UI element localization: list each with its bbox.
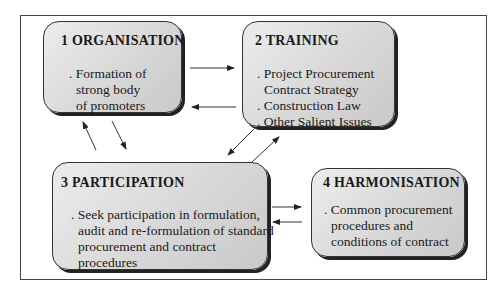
- box-participation-body: . Seek participation in formulation, aud…: [71, 207, 274, 271]
- box-harmonisation-line: conditions of contract: [324, 234, 453, 250]
- box-participation-line: . Seek participation in formulation,: [71, 207, 274, 223]
- box-participation-line: procedures: [71, 255, 274, 271]
- box-organisation-line: strong body: [69, 82, 147, 98]
- box-training-line: . Other Salient Issues: [257, 114, 374, 130]
- box-training-line: . Construction Law: [257, 98, 374, 114]
- box-harmonisation: 4 HARMONISATION . Common procurement pro…: [311, 168, 465, 257]
- box-training-title: 2 TRAINING: [255, 33, 339, 49]
- box-organisation-line: of promoters: [69, 98, 147, 114]
- box-training-line: . Project Procurement: [257, 66, 374, 82]
- box-organisation-title: 1 ORGANISATION: [61, 33, 185, 49]
- box-participation-line: procurement and contract: [71, 239, 274, 255]
- box-organisation-body: . Formation of strong body of promoters: [69, 66, 147, 114]
- box-harmonisation-line: procedures and: [324, 218, 453, 234]
- box-organisation-line: . Formation of: [69, 66, 147, 82]
- box-harmonisation-title: 4 HARMONISATION: [323, 175, 460, 191]
- box-harmonisation-body: . Common procurement procedures and cond…: [324, 202, 453, 250]
- box-training-body: . Project Procurement Contract Strategy …: [257, 66, 374, 130]
- box-training: 2 TRAINING . Project Procurement Contrac…: [242, 21, 395, 127]
- box-participation: 3 PARTICIPATION . Seek participation in …: [52, 162, 268, 270]
- box-harmonisation-line: . Common procurement: [324, 202, 453, 218]
- box-participation-line: audit and re-formulation of standard: [71, 223, 274, 239]
- box-participation-title: 3 PARTICIPATION: [61, 175, 184, 191]
- box-organisation: 1 ORGANISATION . Formation of strong bod…: [43, 21, 182, 113]
- box-training-line: Contract Strategy: [257, 82, 374, 98]
